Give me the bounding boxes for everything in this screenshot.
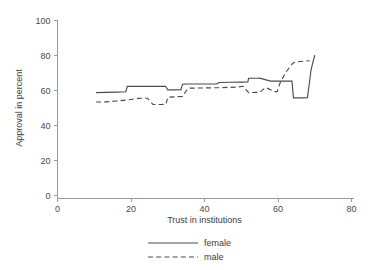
y-tick-label-60: 60 <box>40 86 50 96</box>
chart-container: 020406080100 020406080 Trust in institut… <box>0 0 375 270</box>
x-tick-label-20: 20 <box>126 204 136 214</box>
x-tick-label-0: 0 <box>55 204 60 214</box>
y-axis-title: Approval in percent <box>14 69 24 147</box>
y-tick-label-20: 20 <box>40 156 50 166</box>
data-series-group <box>96 55 315 104</box>
legend-label-female: female <box>204 238 231 248</box>
legend: female male <box>148 238 231 262</box>
x-axis: 020406080 <box>55 198 357 214</box>
x-axis-title: Trust in institutions <box>167 215 242 225</box>
series-line-male <box>96 61 310 105</box>
x-axis-ticks: 020406080 <box>55 198 357 214</box>
x-tick-label-40: 40 <box>199 204 209 214</box>
legend-label-male: male <box>204 252 224 262</box>
x-tick-label-60: 60 <box>273 204 283 214</box>
y-tick-label-40: 40 <box>40 121 50 131</box>
y-axis: 020406080100 <box>35 16 57 201</box>
y-axis-ticks: 020406080100 <box>35 16 57 201</box>
line-chart: 020406080100 020406080 Trust in institut… <box>0 0 375 270</box>
y-tick-label-100: 100 <box>35 16 50 26</box>
y-tick-label-0: 0 <box>45 191 50 201</box>
x-tick-label-80: 80 <box>346 204 356 214</box>
series-line-female <box>96 55 315 98</box>
y-tick-label-80: 80 <box>40 51 50 61</box>
